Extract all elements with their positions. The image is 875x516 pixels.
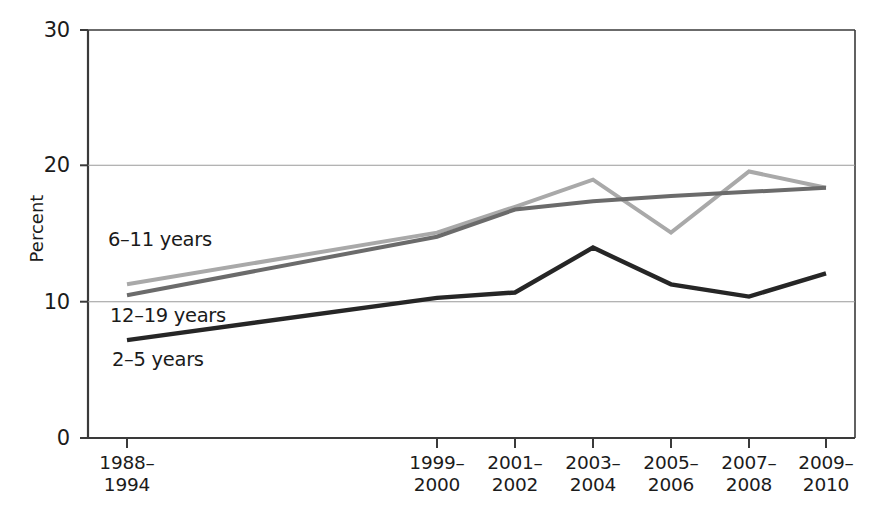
x-axis-tick-label-2009-2010: 2009– 2010: [781, 452, 871, 496]
chart-series-group: [127, 171, 826, 340]
y-axis-ticks: [80, 30, 88, 438]
y-axis-tick-label-0: 0: [18, 426, 70, 450]
x-tick-4-line1: 2005–: [626, 452, 716, 474]
x-tick-6-line1: 2009–: [781, 452, 871, 474]
y-axis-tick-label-10: 10: [18, 290, 70, 314]
x-axis-ticks: [127, 438, 826, 448]
x-tick-0-line2: 1994: [82, 474, 172, 496]
x-tick-4-line2: 2006: [626, 474, 716, 496]
x-tick-1-line1: 1999–: [392, 452, 482, 474]
series-label-12-19-years: 12–19 years: [110, 304, 226, 327]
x-tick-3-line1: 2003–: [548, 452, 638, 474]
x-axis-tick-label-2003-2004: 2003– 2004: [548, 452, 638, 496]
x-axis-tick-label-2005-2006: 2005– 2006: [626, 452, 716, 496]
x-tick-3-line2: 2004: [548, 474, 638, 496]
x-axis-tick-label-2001-2002: 2001– 2002: [470, 452, 560, 496]
x-tick-0-line1: 1988–: [82, 452, 172, 474]
series-line-6-11-years: [127, 171, 826, 284]
line-chart-plot: [0, 0, 875, 516]
x-tick-1-line2: 2000: [392, 474, 482, 496]
x-axis-tick-label-1988-1994: 1988– 1994: [82, 452, 172, 496]
x-tick-6-line2: 2010: [781, 474, 871, 496]
y-axis-tick-label-30: 30: [18, 18, 70, 42]
series-line-12-19-years: [127, 188, 826, 295]
y-axis-title: Percent: [26, 169, 47, 289]
chart-figure: Percent 30 20 10 0 1988– 1994 1999– 2000…: [0, 0, 875, 516]
series-label-6-11-years: 6–11 years: [108, 228, 212, 251]
y-axis-tick-label-20: 20: [18, 153, 70, 177]
x-axis-tick-label-1999-2000: 1999– 2000: [392, 452, 482, 496]
series-line-2-5-years: [127, 248, 826, 340]
series-label-2-5-years: 2–5 years: [112, 348, 204, 371]
x-tick-2-line1: 2001–: [470, 452, 560, 474]
x-tick-2-line2: 2002: [470, 474, 560, 496]
